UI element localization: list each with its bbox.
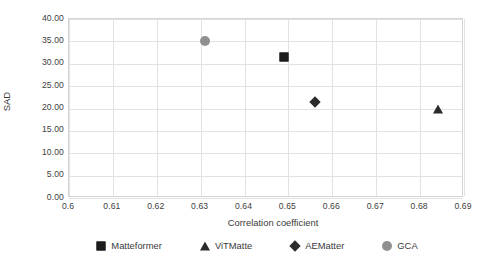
gridline-horizontal	[69, 41, 462, 42]
legend-item-aematter[interactable]: AEMatter	[290, 240, 344, 251]
gridline-vertical	[420, 19, 421, 196]
gridline-horizontal	[69, 19, 462, 20]
x-tick-label: 0.67	[353, 202, 397, 211]
plot-area	[68, 18, 463, 197]
x-tick-label: 0.6	[46, 202, 90, 211]
gridline-horizontal	[69, 131, 462, 132]
gridline-vertical	[332, 19, 333, 196]
y-tick-label: 15.00	[2, 125, 64, 134]
gridline-horizontal	[69, 109, 462, 110]
x-tick-label: 0.61	[90, 202, 134, 211]
x-tick-label: 0.65	[265, 202, 309, 211]
square-glyph-icon	[97, 241, 106, 250]
gridline-horizontal	[69, 176, 462, 177]
gridline-horizontal	[69, 198, 462, 199]
x-tick-label: 0.64	[222, 202, 266, 211]
y-tick-label: 10.00	[2, 148, 64, 157]
gridline-vertical	[376, 19, 377, 196]
square-marker-icon	[96, 241, 106, 251]
y-tick-label: 25.00	[2, 81, 64, 90]
circle-marker-icon	[382, 241, 392, 251]
x-tick-label: 0.63	[178, 202, 222, 211]
legend-item-gca[interactable]: GCA	[382, 240, 417, 251]
legend-item-matteformer[interactable]: Matteformer	[96, 240, 162, 251]
data-point-vitmatte[interactable]	[433, 104, 443, 113]
data-point-matteformer[interactable]	[280, 53, 289, 62]
y-tick-label: 35.00	[2, 36, 64, 45]
triangle-marker-icon	[200, 241, 210, 251]
x-axis-title: Correlation coefficient	[0, 217, 488, 228]
y-tick-label: 30.00	[2, 58, 64, 67]
legend-label: GCA	[397, 240, 417, 251]
x-tick-label: 0.68	[397, 202, 441, 211]
legend-label: Matteformer	[111, 240, 162, 251]
legend-label: AEMatter	[305, 240, 344, 251]
gridline-horizontal	[69, 64, 462, 65]
data-point-aematter[interactable]	[309, 96, 320, 107]
y-tick-label: 5.00	[2, 170, 64, 179]
gridline-horizontal	[69, 153, 462, 154]
legend-label: ViTMatte	[215, 240, 252, 251]
diamond-glyph-icon	[290, 240, 301, 251]
circle-glyph-icon	[382, 241, 392, 251]
y-axis-tick-labels: 0.005.0010.0015.0020.0025.0030.0035.0040…	[0, 0, 64, 274]
gridline-vertical	[245, 19, 246, 196]
x-tick-label: 0.66	[309, 202, 353, 211]
scatter-chart: 0.005.0010.0015.0020.0025.0030.0035.0040…	[0, 0, 488, 274]
legend-item-vitmatte[interactable]: ViTMatte	[200, 240, 252, 251]
diamond-marker-icon	[290, 241, 300, 251]
gridline-vertical	[464, 19, 465, 196]
y-tick-label: 0.00	[2, 193, 64, 202]
gridline-vertical	[69, 19, 70, 196]
chart-legend: MatteformerViTMatteAEMatterGCA	[0, 240, 488, 251]
gridline-horizontal	[69, 86, 462, 87]
triangle-glyph-icon	[200, 241, 210, 250]
y-tick-label: 40.00	[2, 14, 64, 23]
y-axis-title: SAD	[1, 92, 12, 111]
x-tick-label: 0.62	[134, 202, 178, 211]
gridline-vertical	[288, 19, 289, 196]
data-point-gca[interactable]	[200, 36, 210, 46]
gridline-vertical	[157, 19, 158, 196]
gridline-vertical	[113, 19, 114, 196]
x-tick-label: 0.69	[441, 202, 485, 211]
